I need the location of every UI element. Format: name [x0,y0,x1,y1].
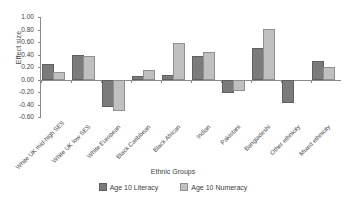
y-tick-label: -0.60 [8,114,34,121]
legend-swatch-numeracy [180,183,188,191]
bar-literacy[interactable] [282,80,294,103]
bar-numeracy[interactable] [263,29,275,80]
x-tick-mark [251,80,252,83]
x-tick-mark [71,80,72,83]
bar-numeracy[interactable] [83,56,95,80]
bar-group [221,17,251,117]
bar-numeracy[interactable] [203,52,215,80]
x-tick-mark [131,80,132,83]
x-tick-mark [311,80,312,83]
x-tick-mark [281,80,282,83]
bar-group [311,17,341,117]
x-axis-title: Ethnic Groups [0,168,346,175]
bar-group [131,17,161,117]
y-tick-label: -0.40 [8,102,34,109]
bar-group [101,17,131,117]
bar-group [191,17,221,117]
y-tick-label: 0.20 [8,64,34,71]
bar-numeracy[interactable] [323,67,335,80]
x-tick-mark [101,80,102,83]
chart-legend: Age 10 Literacy Age 10 Numeracy [0,183,346,191]
y-tick-label: 1.00 [8,14,34,21]
y-tick-label: 0.80 [8,27,34,34]
x-tick-mark [221,80,222,83]
bar-chart: Effect size 1.000.800.600.400.200.00-0.2… [0,0,346,199]
legend-swatch-literacy [99,183,107,191]
bar-numeracy[interactable] [143,70,155,79]
bar-group [251,17,281,117]
y-tick-label: 0.60 [8,39,34,46]
bar-numeracy[interactable] [233,80,245,92]
legend-label-numeracy: Age 10 Numeracy [191,184,247,191]
bar-numeracy[interactable] [173,43,185,79]
x-tick-mark [41,80,42,83]
legend-item-literacy: Age 10 Literacy [99,183,159,191]
bar-numeracy[interactable] [53,72,65,80]
y-tick-label: -0.20 [8,89,34,96]
plot-area [40,17,341,117]
legend-label-literacy: Age 10 Literacy [110,184,159,191]
y-tick-label: 0.40 [8,52,34,59]
y-tick-label: 0.00 [8,77,34,84]
y-tick-mark [38,117,41,118]
bar-group [71,17,101,117]
bar-group [161,17,191,117]
x-tick-mark [191,80,192,83]
bar-numeracy[interactable] [113,80,125,111]
legend-item-numeracy: Age 10 Numeracy [180,183,247,191]
bar-group [41,17,71,117]
x-tick-mark [161,80,162,83]
bar-group [281,17,311,117]
